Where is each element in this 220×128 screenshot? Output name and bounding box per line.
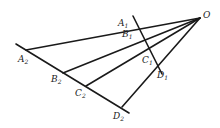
label-c1: C1 — [142, 55, 153, 66]
label-a1: A1 — [117, 18, 128, 29]
label-c2: C2 — [75, 88, 86, 99]
label-d2: D2 — [112, 111, 124, 122]
ray-od — [122, 18, 200, 107]
label-a2: A2 — [17, 54, 29, 65]
transversal-2 — [16, 44, 129, 113]
geometry-diagram: O A1 B1 C1 D1 A2 B2 C2 D2 — [0, 0, 220, 128]
ray-ob — [63, 18, 200, 73]
transversal-1 — [133, 16, 162, 74]
label-o: O — [203, 10, 211, 20]
label-d1: D1 — [156, 70, 168, 81]
label-b2: B2 — [50, 74, 62, 85]
